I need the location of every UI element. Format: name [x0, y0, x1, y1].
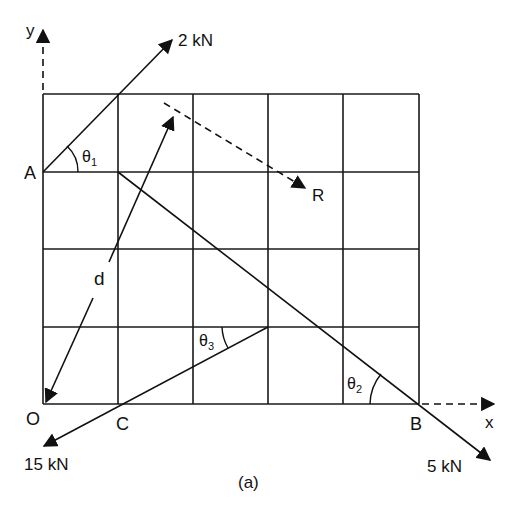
theta2-arc [370, 374, 381, 404]
force-15kn-label: 15 kN [24, 455, 68, 474]
force-2kn-arrow [43, 40, 172, 172]
resultant-r-arrow [164, 103, 305, 188]
theta1-arc [67, 146, 78, 172]
x-axis-label: x [485, 413, 494, 432]
figure-caption: (a) [238, 473, 259, 492]
point-r-label: R [312, 186, 324, 205]
force-2kn-label: 2 kN [178, 31, 213, 50]
distance-d-label: d [94, 268, 105, 289]
theta3-label: θ3 [199, 332, 214, 352]
grid [43, 94, 419, 404]
force-diagram: y x 2 kN 5 kN 15 kN A O C B R d θ1 θ2 θ3… [0, 0, 524, 520]
point-b-label: B [410, 414, 422, 434]
force-5kn-arrow [118, 172, 490, 460]
force-15kn-arrow [44, 327, 268, 446]
point-c-label: C [116, 414, 129, 434]
point-o-label: O [26, 409, 40, 429]
theta1-label: θ1 [82, 148, 97, 168]
theta2-label: θ2 [347, 375, 362, 395]
force-5kn-label: 5 kN [427, 457, 462, 476]
y-axis-label: y [26, 21, 35, 40]
theta3-arc [222, 327, 228, 348]
distance-d-lower [46, 298, 93, 402]
point-a-label: A [24, 163, 36, 183]
